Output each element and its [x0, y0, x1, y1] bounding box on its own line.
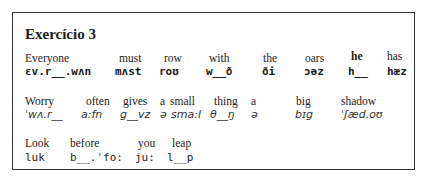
word: you — [138, 137, 155, 149]
word: big — [296, 95, 311, 107]
ipa-transcription: l__p — [167, 151, 194, 164]
ipa-transcription: ə — [251, 108, 258, 121]
word: leap — [172, 137, 191, 149]
word: often — [86, 95, 110, 107]
word: small — [170, 95, 195, 107]
word: must — [119, 52, 141, 64]
ipa-transcription: b__.ˈfo: — [70, 151, 123, 164]
word: with — [209, 52, 229, 64]
word: he — [351, 50, 363, 62]
ipa-transcription: ɔəz — [304, 65, 324, 78]
word: Look — [25, 137, 49, 149]
ipa-transcription: mʌst — [115, 65, 142, 78]
word: before — [70, 137, 99, 149]
word: Worry — [25, 95, 54, 107]
word: a — [251, 95, 256, 107]
ipa-transcription: ju: — [135, 151, 155, 164]
ipa-transcription: ˈwʌ.r__ — [25, 108, 63, 121]
ipa-transcription: roʊ — [159, 65, 179, 78]
ipa-transcription: a:fn — [81, 108, 102, 121]
ipa-transcription: h__ — [348, 65, 368, 78]
ipa-transcription: θ__ŋ — [210, 108, 235, 121]
word: oars — [305, 52, 324, 64]
exercise-title: Exercício 3 — [25, 26, 96, 43]
ipa-transcription: luk — [25, 151, 45, 164]
word: has — [387, 50, 402, 62]
word: row — [164, 52, 182, 64]
ipa-transcription: w__ð — [206, 65, 233, 78]
word: a — [160, 95, 165, 107]
word: the — [263, 52, 277, 64]
word: thing — [214, 95, 238, 107]
ipa-transcription: hæz — [387, 65, 407, 78]
ipa-transcription: ði — [262, 65, 275, 78]
ipa-transcription: g__vz — [120, 108, 150, 121]
word: shadow — [341, 95, 376, 107]
ipa-transcription: bɪg — [295, 108, 313, 121]
ipa-transcription: ˈʃæd.oʊ — [341, 108, 383, 121]
ipa-transcription: ə — [160, 108, 167, 121]
word: Everyone — [25, 52, 69, 64]
ipa-transcription: sma:l — [171, 108, 201, 121]
word: gives — [123, 95, 147, 107]
ipa-transcription: ɛv.r__.wʌn — [25, 65, 91, 78]
